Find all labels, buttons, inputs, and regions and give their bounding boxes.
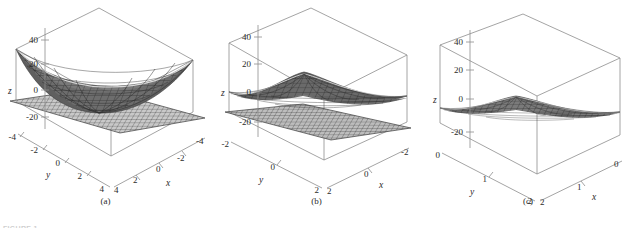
plot-c-canvas: 40 20 0 -20 z 0 1 2 y — [422, 0, 634, 205]
plot-b-ytick-1: 0 — [271, 162, 276, 172]
plot-b-xtick-2: -2 — [401, 147, 409, 157]
plot-a-ytick-0: -4 — [9, 132, 17, 142]
plot-a-x-axis-label: x — [165, 178, 171, 188]
plot-a-xtick-0: 4 — [114, 185, 119, 195]
plot-a-xtick-2: 0 — [156, 164, 161, 174]
plot-b-xtick-1: 0 — [364, 169, 369, 179]
plot-panel-a: 40 20 0 -20 z -4 -2 0 2 4 y — [0, 0, 211, 228]
plot-b-ytick-0: -2 — [222, 139, 230, 149]
plot-a-ztick-2: 0 — [34, 85, 39, 95]
plot-c-ztick-3: -20 — [451, 127, 463, 137]
plot-a-xtick-1: 2 — [133, 175, 138, 185]
plot-b-ytick-2: 2 — [315, 185, 320, 195]
plot-a-ytick-4: 4 — [100, 184, 105, 194]
plot-b-ztick-0: 40 — [242, 32, 252, 42]
plot-b-sublabel: (b) — [211, 196, 422, 206]
figure-caption-partial: FIGURE 1 — [3, 225, 38, 228]
plot-a-ytick-2: 0 — [56, 158, 61, 168]
plot-a-ztick-0: 40 — [29, 35, 39, 45]
plot-c-ztick-0: 40 — [454, 37, 464, 47]
plot-a-canvas: 40 20 0 -20 z -4 -2 0 2 4 y — [0, 0, 211, 205]
plot-c-xtick-2: 0 — [614, 159, 619, 169]
plot-panel-c: 40 20 0 -20 z 0 1 2 y — [422, 0, 634, 228]
plot-a-xtick-3: -2 — [177, 153, 185, 163]
plot-c-z-axis-label: z — [432, 95, 437, 105]
plot-a-ztick-1: 20 — [29, 59, 39, 69]
plot-c-box — [440, 14, 620, 174]
plot-b-z-axis-label: z — [220, 88, 225, 98]
plot-a-ytick-1: -2 — [31, 145, 39, 155]
plot-c-ytick-1: 1 — [483, 174, 488, 184]
figure-root: 40 20 0 -20 z -4 -2 0 2 4 y — [0, 0, 634, 228]
plot-c-z-axis: 40 20 0 -20 z — [432, 30, 474, 148]
plot-b-ztick-1: 20 — [242, 59, 252, 69]
plot-b-x-axis: 2 0 -2 x — [327, 147, 409, 196]
plot-panel-b: 40 20 0 -20 z -2 0 2 y — [211, 0, 422, 228]
plot-b-y-axis: -2 0 2 y — [222, 139, 323, 195]
plot-c-sublabel: (c) — [422, 196, 634, 206]
plot-c-xtick-1: 1 — [577, 182, 582, 192]
plot-c-ztick-1: 20 — [454, 65, 464, 75]
plot-b-ztick-3: -20 — [239, 117, 251, 127]
plot-b-ztick-2: 0 — [247, 87, 252, 97]
plot-a-z-axis-label: z — [7, 86, 12, 96]
plot-c-ztick-2: 0 — [459, 94, 464, 104]
plot-a-sublabel: (a) — [0, 196, 211, 206]
plot-b-x-axis-label: x — [378, 180, 384, 190]
plot-a-x-axis: 4 2 0 -2 -4 x — [114, 136, 205, 195]
plot-b-y-axis-label: y — [258, 175, 264, 185]
plot-a-ztick-3: -20 — [26, 112, 38, 122]
plot-c-ytick-0: 0 — [436, 150, 441, 160]
plot-a-ytick-3: 2 — [78, 171, 83, 181]
plot-a-xtick-4: -4 — [196, 136, 204, 146]
plot-c-flat-surface — [422, 92, 634, 128]
plot-b-xtick-0: 2 — [327, 186, 332, 196]
plot-a-y-axis-label: y — [45, 170, 51, 180]
plot-b-canvas: 40 20 0 -20 z -2 0 2 y — [211, 0, 422, 205]
plot-a-y-axis: -4 -2 0 2 4 y — [9, 132, 111, 194]
